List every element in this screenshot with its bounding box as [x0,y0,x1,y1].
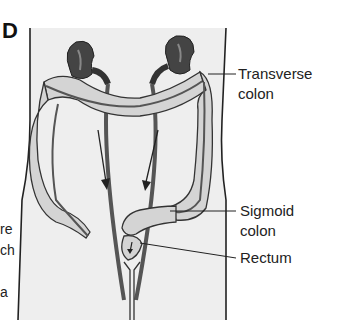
label-sigmoid-colon: Sigmoid colon [240,201,294,241]
label-line: Rectum [240,248,292,268]
label-line: colon [238,84,312,104]
label-line: colon [240,221,294,241]
label-line: Sigmoid [240,201,294,221]
label-line: Transverse [238,64,312,84]
colon-illustration [0,0,341,320]
label-rectum: Rectum [240,248,292,268]
label-transverse-colon: Transverse colon [238,64,312,104]
